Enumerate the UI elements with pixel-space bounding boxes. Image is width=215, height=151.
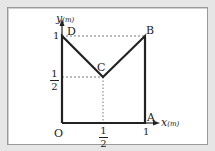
y-axis-unit: (m) [62, 16, 74, 24]
origin-label: O [54, 128, 63, 139]
path-OABCDO [62, 36, 145, 123]
x-axis-unit: (m) [167, 120, 179, 128]
y-tick-half: 1 2 [50, 69, 59, 92]
x-tick-1: 1 [143, 127, 149, 137]
x-axis-label: x(m) [161, 117, 179, 128]
point-label-b: B [146, 25, 154, 36]
y-tick-half-numerator: 1 [50, 69, 59, 81]
x-tick-half-denominator: 2 [99, 138, 108, 149]
point-label-c: C [97, 62, 105, 73]
y-axis-label: y(m) [56, 13, 74, 24]
x-tick-half: 1 2 [99, 126, 108, 149]
x-tick-half-numerator: 1 [99, 126, 108, 138]
y-tick-half-denominator: 2 [50, 81, 59, 92]
point-label-d: D [67, 26, 76, 37]
y-tick-1: 1 [53, 31, 59, 41]
point-label-a: A [147, 112, 155, 123]
